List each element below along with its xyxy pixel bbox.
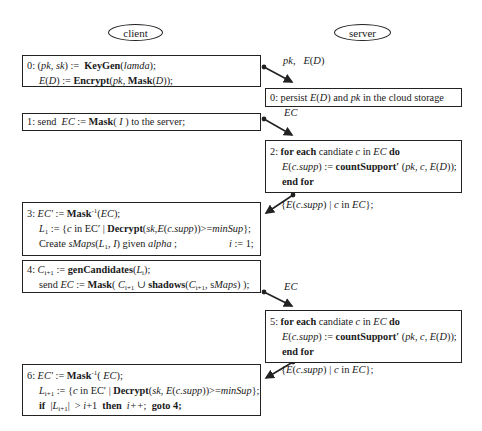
formula-token: pk <box>405 331 415 342</box>
formula-token: Mask <box>87 279 112 290</box>
step-line: if |Li+1| > i+1 then i++; goto 4; <box>27 398 256 413</box>
step-line: E(c.supp) := countSupport′ (pk, c, E(D))… <box>270 159 457 174</box>
arrow-client-to-server-4 <box>264 292 292 306</box>
formula-token: c.supp <box>167 223 194 234</box>
client-step-0: 0: (pk, sk) := KeyGen(lamda); E(D) := En… <box>22 55 261 87</box>
step-line: L1 := {c in EC′ | Decrypt(sk,E(c.supp))>… <box>27 221 256 236</box>
formula-token: Decrypt <box>107 223 142 234</box>
formula-token: )); <box>447 161 457 172</box>
formula-token: ))>= <box>194 223 212 234</box>
message-EC-2: EC <box>284 281 297 292</box>
formula-token: Encrypt <box>73 75 109 86</box>
formula-token: }; <box>365 364 373 375</box>
formula-token: }; <box>243 223 251 234</box>
step-line: 3: EC′ := Mask-1(EC); <box>27 206 256 221</box>
message-supports-2: {E(c.supp) | c in EC}; <box>281 364 373 375</box>
formula-token: E <box>286 199 292 210</box>
formula-token: EC <box>284 281 297 292</box>
formula-token: i+1 <box>125 284 134 292</box>
formula-token: ) := <box>56 75 73 86</box>
formula-token: sk <box>152 385 161 396</box>
formula-token: Maps <box>214 279 237 290</box>
formula-token: EC <box>103 370 116 381</box>
formula-token: := <box>75 116 89 127</box>
formula-token: , <box>293 55 304 66</box>
formula-token: i+1 <box>196 284 205 292</box>
formula-token: E <box>310 92 316 103</box>
formula-token: 5: <box>270 316 281 327</box>
step-line: 5: for each candiate c in EC do <box>270 314 457 329</box>
arrow-client-to-server-1 <box>264 119 292 135</box>
formula-token: do <box>387 146 400 157</box>
formula-token: C <box>118 279 125 290</box>
formula-token: c.supp <box>292 161 319 172</box>
formula-token: D <box>313 55 321 66</box>
formula-token: | <box>45 400 52 411</box>
formula-token: E <box>430 161 436 172</box>
formula-token: candiate <box>316 146 355 157</box>
formula-token: EC <box>352 199 365 210</box>
formula-token: := <box>53 208 67 219</box>
formula-token: Create <box>39 238 68 249</box>
formula-token: 6: <box>27 370 38 381</box>
formula-token: do <box>387 316 400 327</box>
formula-token: i+1 <box>45 390 54 398</box>
formula-token: 4: <box>27 264 38 275</box>
formula-token: in the cloud storage <box>360 92 444 103</box>
formula-token: pk <box>405 161 415 172</box>
formula-token: EC <box>373 316 386 327</box>
client-step-3: 3: EC′ := Mask-1(EC); L1 := {c in EC′ | … <box>22 202 261 256</box>
formula-token: end for <box>282 176 314 187</box>
formula-token: := <box>74 279 88 290</box>
formula-token: in EC′ | <box>77 385 113 396</box>
formula-token: E <box>430 331 436 342</box>
formula-token: in <box>339 364 352 375</box>
formula-token: ); <box>114 208 120 219</box>
formula-token: ) to the server; <box>123 116 185 127</box>
formula-token: EC <box>101 208 114 219</box>
formula-token: EC <box>352 364 365 375</box>
message-supports-1: {E(c.supp) | c in EC}; <box>281 199 373 210</box>
formula-token: E <box>166 385 172 396</box>
formula-token: ; <box>172 238 177 249</box>
step-line: 0: persist E(D) and pk in the cloud stor… <box>270 90 457 105</box>
formula-token: in <box>360 316 373 327</box>
formula-token: := <box>54 264 68 275</box>
formula-token: ) | <box>323 364 334 375</box>
formula-token: E <box>303 55 309 66</box>
formula-token: c.supp <box>176 385 203 396</box>
formula-token: Decrypt <box>113 385 148 396</box>
formula-token: i+1 <box>58 405 67 413</box>
formula-token: ) given <box>117 238 148 249</box>
step-line: Li+1 := {c in EC′ | Decrypt(sk, E(c.supp… <box>27 383 256 398</box>
formula-token: E <box>282 331 288 342</box>
formula-token: 3: <box>27 208 38 219</box>
formula-token: sk <box>146 223 155 234</box>
step-line: 1: send EC := Mask( I ) to the server; <box>27 114 256 129</box>
step-line: 4: Ci+1 := genCandidates(Li); <box>27 262 256 277</box>
formula-token: ) := <box>64 60 84 71</box>
formula-token: ); <box>116 370 122 381</box>
formula-token: in <box>339 199 352 210</box>
server-step-0: 0: persist E(D) and pk in the cloud stor… <box>265 88 462 107</box>
formula-token: D <box>440 331 447 342</box>
formula-token: lamda <box>124 60 150 71</box>
formula-token: 1: send <box>27 116 62 127</box>
formula-token: )); <box>447 331 457 342</box>
formula-token: Mask <box>67 208 92 219</box>
formula-token: pk <box>283 55 293 66</box>
formula-token: ); <box>144 264 150 275</box>
formula-token: in EC′ | <box>72 223 108 234</box>
formula-token: E <box>282 161 288 172</box>
formula-token: goto 4; <box>152 400 182 411</box>
formula-token: alpha <box>148 238 171 249</box>
formula-token: countSupport′ <box>336 331 400 342</box>
formula-token: i++ <box>127 400 144 411</box>
step-line: E(D) := Encrypt(pk, Mask(D)); <box>27 73 256 88</box>
client-step-4: 4: Ci+1 := genCandidates(Li); send EC :=… <box>22 260 261 293</box>
formula-token: E <box>39 75 45 86</box>
formula-token: ) := <box>318 161 335 172</box>
step-line: E(c.supp) := countSupport′ (pk, c, E(D))… <box>270 329 457 344</box>
formula-token: ) | <box>323 199 334 210</box>
formula-token: > <box>70 400 84 411</box>
